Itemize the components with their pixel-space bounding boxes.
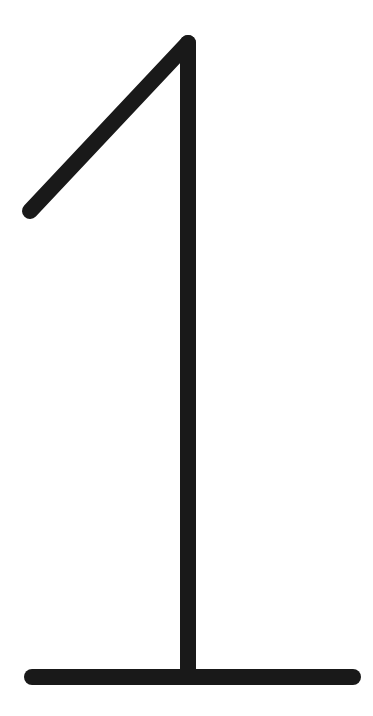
glyph-canvas: Numeral One 1 Large stylized handwritten… xyxy=(0,0,373,716)
digit-one-icon xyxy=(0,0,373,716)
